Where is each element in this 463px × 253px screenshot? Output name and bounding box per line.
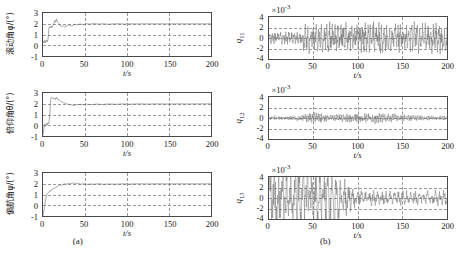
subplot-pitch: 3 2 1 0 -1 0 50 100 150 200 t/s 俯仰角θ/(°)	[0, 82, 232, 162]
q11-subscript: 11	[237, 33, 244, 39]
xtick-label: 150	[392, 142, 414, 151]
series-q12	[269, 97, 447, 139]
figure-root: 3 2 1 0 -1 0 50 100 150 200 t/s 滚动角φ/(°)	[0, 0, 463, 253]
xtick-label: 200	[437, 62, 459, 71]
ytick-label: 0	[248, 194, 264, 203]
ytick-label: 2	[22, 20, 38, 29]
ytick-label: 0	[22, 202, 38, 211]
ytick-label: 4	[248, 93, 264, 102]
ytick-label: 1	[22, 191, 38, 200]
xaxis-title: t/s	[341, 70, 375, 80]
subplot-q12: ×10-3 4 2 0 -2 -4 0 50 100 150 200 t/	[232, 82, 463, 162]
ytick-label: 3	[22, 9, 38, 18]
xtick-label: 50	[304, 62, 322, 71]
xtick-label: 50	[304, 222, 322, 231]
subplot-yaw: 3 2 1 0 -1 0 50 100 150 200 t/s 偏航角ψ/(°)	[0, 162, 232, 242]
exponent-label-q12: ×10-3	[272, 83, 291, 95]
yaxis-title-yaw: 偏航角ψ/(°)	[4, 163, 15, 225]
ytick-label: 2	[248, 23, 264, 32]
ytick-label: 4	[248, 13, 264, 22]
yaxis-title-q13: q13	[233, 182, 245, 214]
ytick-label: 2	[248, 103, 264, 112]
ytick-label: 3	[22, 169, 38, 178]
xtick-label: 0	[259, 62, 277, 71]
xtick-label: 0	[33, 60, 51, 69]
ytick-label: 0	[248, 34, 264, 43]
series-q13	[269, 177, 447, 219]
plot-area-roll	[42, 12, 212, 57]
xtick-label: 0	[33, 140, 51, 149]
plot-area-pitch	[42, 92, 212, 137]
xtick-label: 150	[159, 140, 181, 149]
exponent-label-q13: ×10-3	[272, 163, 291, 175]
xtick-label: 50	[304, 142, 322, 151]
xtick-label: 200	[201, 60, 223, 69]
panel-a: 3 2 1 0 -1 0 50 100 150 200 t/s 滚动角φ/(°)	[0, 0, 232, 253]
plot-area-yaw	[42, 172, 212, 217]
ytick-label: 0	[22, 122, 38, 131]
xtick-label: 200	[201, 140, 223, 149]
xtick-label: 150	[392, 222, 414, 231]
xtick-label: 150	[159, 60, 181, 69]
xtick-label: 200	[201, 220, 223, 229]
xtick-label: 0	[33, 220, 51, 229]
xtick-label: 0	[259, 142, 277, 151]
xtick-label: 50	[75, 140, 93, 149]
series-psi	[43, 173, 211, 216]
ytick-label: 2	[22, 100, 38, 109]
ytick-label: 1	[22, 111, 38, 120]
yaxis-title-roll: 滚动角φ/(°)	[4, 3, 15, 65]
ytick-label: 3	[22, 89, 38, 98]
ytick-label: 2	[22, 180, 38, 189]
xtick-label: 200	[437, 222, 459, 231]
xtick-label: 150	[392, 62, 414, 71]
series-phi	[43, 13, 211, 56]
subplot-roll: 3 2 1 0 -1 0 50 100 150 200 t/s 滚动角φ/(°)	[0, 2, 232, 82]
xaxis-title: t/s	[110, 148, 144, 158]
ytick-label: -2	[245, 44, 264, 53]
q12-subscript: 12	[237, 112, 244, 119]
ytick-label: -2	[245, 204, 264, 213]
yaxis-title-q11: q11	[233, 22, 245, 54]
panel-a-caption: (a)	[0, 236, 194, 246]
xaxis-title: t/s	[110, 68, 144, 78]
series-q11	[269, 17, 447, 59]
ytick-label: -2	[245, 124, 264, 133]
xtick-label: 200	[437, 142, 459, 151]
q13-subscript: 13	[237, 192, 244, 199]
yaxis-title-q12: q12	[233, 102, 245, 134]
xaxis-title: t/s	[341, 150, 375, 160]
exponent-label-q11: ×10-3	[272, 3, 291, 15]
xtick-label: 50	[75, 60, 93, 69]
plot-area-q11	[268, 16, 448, 60]
ytick-label: 0	[248, 114, 264, 123]
ytick-label: 2	[248, 183, 264, 192]
panel-b: ×10-3 4 2 0 -2 -4 0 50 100 150 200 t/	[232, 0, 463, 253]
subplot-q11: ×10-3 4 2 0 -2 -4 0 50 100 150 200 t/	[232, 2, 463, 82]
xtick-label: 50	[75, 220, 93, 229]
series-theta	[43, 93, 211, 136]
plot-area-q13	[268, 176, 448, 220]
yaxis-title-pitch: 俯仰角θ/(°)	[4, 83, 15, 145]
ytick-label: 1	[22, 31, 38, 40]
ytick-label: 0	[22, 42, 38, 51]
xtick-label: 150	[159, 220, 181, 229]
plot-area-q12	[268, 96, 448, 140]
ytick-label: 4	[248, 173, 264, 182]
subplot-q13: ×10-3 4 2 0 -2 -4 0 50 100 150 200 t/	[232, 162, 463, 242]
xtick-label: 0	[259, 222, 277, 231]
panel-b-caption: (b)	[210, 236, 442, 246]
